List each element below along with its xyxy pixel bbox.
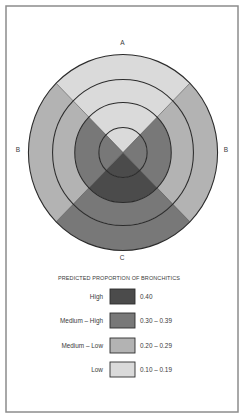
legend-range: 0.10 – 0.19: [140, 366, 172, 373]
figure: A B B C PREDICTED PROPORTION OF BRONCHIT…: [0, 0, 243, 419]
legend-swatch: [110, 289, 135, 304]
legend-swatch: [110, 313, 135, 328]
quadrant-label-right: B: [224, 146, 228, 153]
legend-swatch: [110, 362, 135, 377]
legend-label: Medium – High: [60, 317, 103, 325]
legend-range: 0.30 – 0.39: [140, 317, 172, 324]
legend-swatch: [110, 338, 135, 353]
legend-title: PREDICTED PROPORTION OF BRONCHITICS: [58, 275, 180, 281]
quadrant-label-left: B: [16, 146, 20, 153]
legend-range: 0.20 – 0.29: [140, 342, 172, 349]
legend-label: High: [90, 293, 104, 301]
legend-range: 0.40: [140, 293, 153, 300]
legend-label: Medium – Low: [61, 342, 103, 349]
legend-label: Low: [91, 366, 103, 373]
quadrant-label-bottom: C: [120, 254, 125, 261]
quadrant-label-top: A: [120, 39, 125, 46]
ring-diagram: [28, 54, 217, 250]
